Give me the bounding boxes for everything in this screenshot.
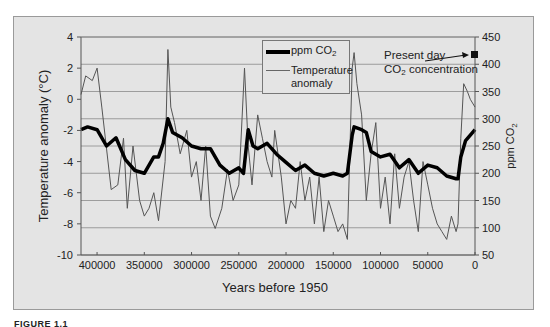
legend: ppm CO2 Temperatureanomaly: [262, 40, 350, 94]
y-left-tick-label: -4: [63, 156, 73, 168]
x-tick-label: 50000: [412, 259, 443, 271]
legend-swatch-co2: [266, 50, 290, 54]
x-tick-label: 150000: [315, 259, 352, 271]
x-tick-label: 300000: [173, 259, 210, 271]
figure-caption: FIGURE 1.1: [14, 319, 68, 327]
y-left-tick-label: 4: [67, 31, 73, 43]
legend-label-temperature: Temperatureanomaly: [291, 64, 353, 90]
svg-text:ppm CO2: ppm CO2: [504, 123, 519, 169]
right-axis-ticks: 45040035030025020015010050: [475, 31, 500, 261]
y-right-tick-label: 450: [482, 31, 500, 43]
y-right-tick-label: 400: [482, 58, 500, 70]
left-axis-ticks: 420-2-4-6-8-10: [57, 31, 81, 261]
y-left-tick-label: -6: [63, 187, 73, 199]
y-right-tick-label: 100: [482, 222, 500, 234]
legend-label-co2: ppm CO: [291, 44, 332, 56]
y-right-tick-label: 350: [482, 86, 500, 98]
y-axis-right-title: ppm CO2: [504, 123, 519, 169]
x-tick-label: 350000: [126, 259, 163, 271]
legend-swatch-temperature: [266, 70, 290, 71]
x-tick-label: 250000: [220, 259, 257, 271]
co2-series: [81, 119, 475, 179]
y-left-tick-label: -8: [63, 218, 73, 230]
x-tick-label: 100000: [362, 259, 399, 271]
y-right-tick-label: 250: [482, 140, 500, 152]
y-left-tick-label: -2: [63, 124, 73, 136]
x-tick-label: 0: [472, 259, 478, 271]
y-right-tick-label: 200: [482, 167, 500, 179]
y-left-tick-label: 2: [67, 62, 73, 74]
y-axis-left-title: Temperature anomaly (°C): [36, 70, 51, 223]
y-right-tick-label: 50: [482, 249, 494, 261]
y-right-tick-label: 300: [482, 113, 500, 125]
present-day-annotation: Present day CO2 concentration: [384, 48, 478, 80]
y-left-tick-label: 0: [67, 93, 73, 105]
x-axis-title: Years before 1950: [222, 280, 328, 295]
x-tick-label: 400000: [79, 259, 116, 271]
x-tick-label: 200000: [268, 259, 305, 271]
y-right-tick-label: 150: [482, 195, 500, 207]
y-left-tick-label: -10: [57, 249, 73, 261]
